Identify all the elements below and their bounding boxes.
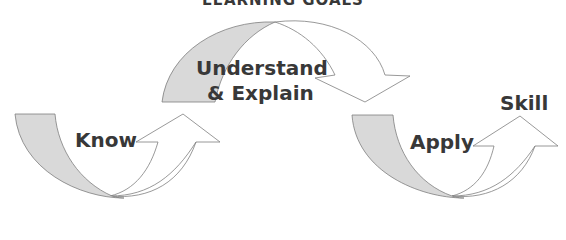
outcome-label-skill: Skill — [500, 93, 548, 113]
stage-label-apply: Apply — [410, 132, 474, 152]
apply-arrow-icon — [352, 115, 558, 198]
know-arrow-icon — [15, 114, 220, 198]
stage-label-explain: & Explain — [207, 83, 314, 103]
stage-label-understand: Understand — [196, 58, 328, 78]
stage-label-know: Know — [75, 130, 137, 150]
